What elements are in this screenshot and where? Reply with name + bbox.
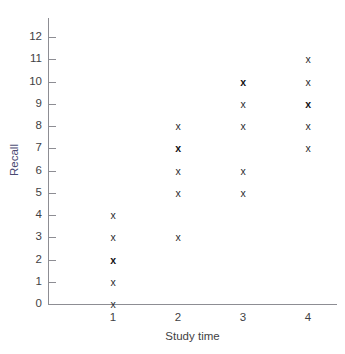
y-tick-label: 9 <box>2 98 42 110</box>
y-tick-label: 10 <box>2 76 42 88</box>
data-point-marker: x <box>238 77 248 87</box>
data-point-marker: x <box>238 99 248 109</box>
data-point-marker: x <box>303 54 313 64</box>
y-tick-mark <box>49 59 56 60</box>
y-tick-label: 3 <box>2 231 42 243</box>
x-axis-line <box>48 304 337 305</box>
data-point-marker: x <box>173 143 183 153</box>
scatter-plot-figure: 0123456789101112 1234 xxxxxxxxxxxxxxxxxx… <box>0 0 345 354</box>
y-tick-label: 2 <box>2 254 42 266</box>
x-tick-label: 4 <box>288 312 328 324</box>
data-point-marker: x <box>238 166 248 176</box>
data-point-marker: x <box>108 210 118 220</box>
y-tick-mark <box>49 104 56 105</box>
y-tick-mark <box>49 282 56 283</box>
data-point-marker: x <box>238 121 248 131</box>
data-point-marker: x <box>108 255 118 265</box>
data-point-marker: x <box>303 77 313 87</box>
y-tick-mark <box>49 193 56 194</box>
x-axis-title: Study time <box>48 330 337 342</box>
y-tick-mark <box>49 260 56 261</box>
y-tick-mark <box>49 37 56 38</box>
data-point-marker: x <box>108 232 118 242</box>
data-point-marker: x <box>303 121 313 131</box>
data-point-marker: x <box>238 188 248 198</box>
y-tick-mark <box>49 304 56 305</box>
y-tick-mark <box>49 171 56 172</box>
x-tick-label: 2 <box>158 312 198 324</box>
y-axis-line <box>48 18 49 305</box>
data-point-marker: x <box>108 299 118 309</box>
data-point-marker: x <box>108 277 118 287</box>
y-tick-mark <box>49 82 56 83</box>
data-point-marker: x <box>173 121 183 131</box>
data-point-marker: x <box>173 188 183 198</box>
y-tick-label: 11 <box>2 53 42 65</box>
y-tick-label: 0 <box>2 298 42 310</box>
y-tick-mark <box>49 126 56 127</box>
data-point-marker: x <box>303 143 313 153</box>
y-tick-mark <box>49 237 56 238</box>
data-point-marker: x <box>173 232 183 242</box>
y-tick-mark <box>49 215 56 216</box>
y-axis-title: Recall <box>8 130 20 190</box>
x-tick-label: 1 <box>93 312 133 324</box>
y-tick-label: 12 <box>2 31 42 43</box>
y-tick-label: 4 <box>2 209 42 221</box>
x-tick-label: 3 <box>223 312 263 324</box>
data-point-marker: x <box>303 99 313 109</box>
data-point-marker: x <box>173 166 183 176</box>
y-tick-mark <box>49 148 56 149</box>
y-tick-label: 1 <box>2 276 42 288</box>
